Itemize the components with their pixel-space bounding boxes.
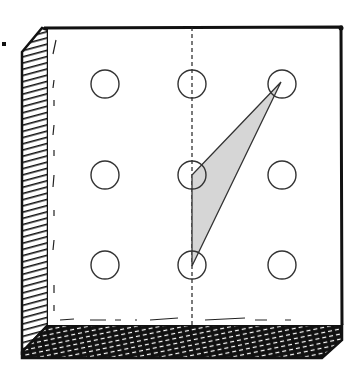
marker-dot: [2, 42, 6, 46]
board-corner-dot: [339, 26, 344, 31]
geoboard-svg: [0, 0, 354, 370]
board-bottom-side: [22, 325, 342, 358]
geoboard-figure: [0, 0, 354, 370]
board-left-side: [22, 28, 48, 352]
